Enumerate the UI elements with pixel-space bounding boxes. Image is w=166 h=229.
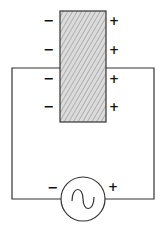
circuit-diagram: − − − − + + + + − +	[0, 0, 166, 229]
right-charges: + + + +	[109, 14, 119, 114]
plus-sign: +	[109, 72, 119, 86]
plus-sign: +	[109, 43, 119, 57]
minus-sign: −	[44, 42, 55, 57]
source-plus-sign: +	[108, 180, 118, 194]
plus-sign: +	[109, 14, 119, 28]
minus-sign: −	[44, 99, 55, 114]
source-minus-sign: −	[48, 180, 59, 195]
minus-sign: −	[44, 13, 55, 28]
piezo-slab	[60, 11, 106, 122]
minus-sign: −	[44, 71, 55, 86]
plus-sign: +	[109, 100, 119, 114]
left-charges: − − − −	[44, 13, 55, 114]
